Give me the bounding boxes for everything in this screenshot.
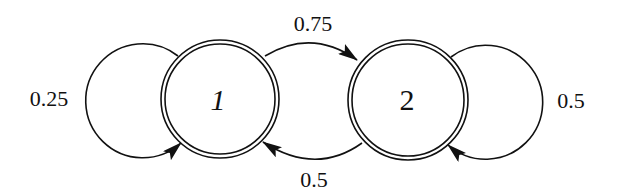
edge-label-1-1: 0.25 (30, 86, 69, 111)
edge-label-2-1: 0.5 (300, 167, 328, 192)
edge-label-2-2: 0.5 (557, 88, 585, 113)
state-label-1: 1 (211, 83, 226, 116)
edge-2-to-1 (263, 142, 362, 159)
state-node-2: 2 (348, 40, 468, 160)
state-label-2: 2 (400, 83, 415, 116)
state-node-1: 1 (161, 40, 279, 158)
edge-label-1-2: 0.75 (294, 11, 333, 36)
edge-1-to-2 (265, 43, 357, 60)
markov-chain-diagram: 1 2 0.25 0.75 0.5 0.5 (0, 0, 620, 196)
